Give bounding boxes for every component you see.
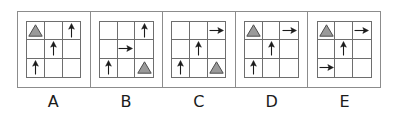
grid-cell-r1-c2: [135, 40, 153, 58]
option-panel-d[interactable]: [236, 12, 309, 87]
option-grid-e: [317, 21, 372, 78]
grid-cell-r1-c1: [263, 40, 281, 58]
options-frame: [17, 11, 381, 88]
grid-cell-r1-c0: [318, 40, 336, 58]
arrow-up-icon: [66, 23, 77, 38]
grid-cell-r1-c0: [172, 40, 190, 58]
triangle-icon: [246, 24, 261, 37]
grid-cell-r2-c0: [172, 59, 190, 77]
arrow-up-icon: [266, 41, 277, 56]
grid-cell-r2-c0: [318, 59, 336, 77]
arrow-up-icon: [193, 41, 204, 56]
grid-cell-r0-c1: [118, 22, 136, 40]
arrow-right-icon: [209, 25, 224, 36]
grid-cell-r2-c2: [63, 59, 81, 77]
grid-cell-r0-c1: [263, 22, 281, 40]
grid-cell-r0-c2: [135, 22, 153, 40]
triangle-icon: [28, 24, 43, 37]
grid-cell-r0-c1: [190, 22, 208, 40]
grid-cell-r0-c2: [353, 22, 371, 40]
option-panel-c[interactable]: [163, 12, 236, 87]
grid-cell-r0-c0: [245, 22, 263, 40]
grid-cell-r0-c2: [280, 22, 298, 40]
grid-cell-r0-c2: [208, 22, 226, 40]
option-label-c: C: [163, 92, 236, 112]
grid-cell-r1-c2: [63, 40, 81, 58]
arrow-right-icon: [319, 62, 334, 73]
grid-cell-r2-c0: [100, 59, 118, 77]
grid-cell-r2-c2: [353, 59, 371, 77]
grid-cell-r1-c0: [100, 40, 118, 58]
arrow-right-icon: [354, 25, 369, 36]
arrow-up-icon: [338, 41, 349, 56]
option-label-b: B: [90, 92, 163, 112]
grid-cell-r1-c0: [245, 40, 263, 58]
grid-cell-r1-c0: [27, 40, 45, 58]
arrow-up-icon: [30, 60, 41, 75]
grid-cell-r2-c0: [245, 59, 263, 77]
answer-options-figure: ABCDE: [0, 0, 398, 123]
grid-cell-r2-c1: [190, 59, 208, 77]
grid-cell-r0-c2: [63, 22, 81, 40]
grid-cell-r0-c0: [172, 22, 190, 40]
grid-cell-r2-c1: [263, 59, 281, 77]
grid-cell-r0-c1: [335, 22, 353, 40]
arrow-right-icon: [118, 43, 133, 54]
grid-cell-r1-c2: [208, 40, 226, 58]
arrow-up-icon: [248, 60, 259, 75]
arrow-up-icon: [48, 41, 59, 56]
grid-cell-r2-c0: [27, 59, 45, 77]
option-label-d: D: [235, 92, 308, 112]
grid-cell-r0-c1: [45, 22, 63, 40]
triangle-icon: [319, 24, 334, 37]
option-panel-e[interactable]: [308, 12, 380, 87]
option-panel-b[interactable]: [91, 12, 164, 87]
triangle-icon: [137, 61, 152, 74]
option-grid-d: [244, 21, 299, 78]
option-label-e: E: [308, 92, 381, 112]
grid-cell-r2-c2: [135, 59, 153, 77]
option-grid-a: [26, 21, 81, 78]
arrow-up-icon: [175, 60, 186, 75]
grid-cell-r1-c1: [190, 40, 208, 58]
grid-cell-r2-c1: [45, 59, 63, 77]
grid-cell-r2-c1: [118, 59, 136, 77]
grid-cell-r0-c0: [100, 22, 118, 40]
grid-cell-r1-c1: [335, 40, 353, 58]
grid-cell-r0-c0: [318, 22, 336, 40]
grid-cell-r2-c2: [280, 59, 298, 77]
grid-cell-r1-c1: [118, 40, 136, 58]
option-grid-b: [99, 21, 154, 78]
arrow-up-icon: [103, 60, 114, 75]
grid-cell-r2-c2: [208, 59, 226, 77]
arrow-right-icon: [282, 25, 297, 36]
arrow-up-icon: [139, 23, 150, 38]
triangle-icon: [209, 61, 224, 74]
option-grid-c: [171, 21, 226, 78]
grid-cell-r1-c2: [280, 40, 298, 58]
grid-cell-r1-c2: [353, 40, 371, 58]
grid-cell-r0-c0: [27, 22, 45, 40]
grid-cell-r2-c1: [335, 59, 353, 77]
option-panel-a[interactable]: [18, 12, 91, 87]
option-label-a: A: [17, 92, 90, 112]
options-label-row: ABCDE: [17, 92, 381, 118]
grid-cell-r1-c1: [45, 40, 63, 58]
